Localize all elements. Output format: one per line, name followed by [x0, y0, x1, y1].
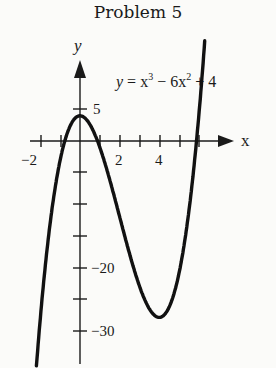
plot-area: −2 2 4 5 −20 −30 y x y = x3 − 6x2 + 4: [0, 0, 276, 368]
x-tick-label-neg2: −2: [21, 152, 37, 168]
x-axis-label: x: [241, 131, 250, 150]
x-tick-label-4: 4: [155, 152, 163, 168]
x-axis-arrow-icon: [218, 135, 234, 147]
y-axis-label: y: [72, 36, 82, 55]
y-axis-arrow-icon: [74, 60, 86, 78]
y-tick-label-5: 5: [93, 101, 101, 117]
y-tick-label-neg20: −20: [91, 260, 114, 276]
x-tick-label-2: 2: [115, 152, 123, 168]
y-tick-label-neg30: −30: [91, 323, 114, 339]
